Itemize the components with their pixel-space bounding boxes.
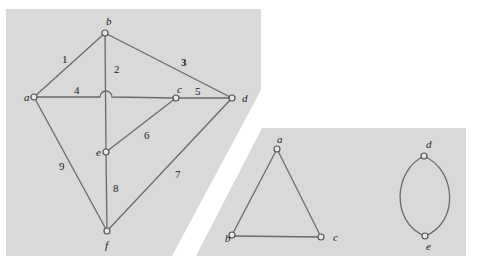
edge-label-1: 1 <box>62 53 68 65</box>
edge-label-6: 6 <box>144 129 150 141</box>
vertex-label-d: d <box>242 92 248 104</box>
vertex-b <box>102 30 108 36</box>
edge-label-7: 7 <box>175 168 181 180</box>
vertex-label-d: d <box>426 138 432 150</box>
graph-figure: 1 2 3 4 5 6 7 8 9 a b c d e f <box>0 0 477 263</box>
vertex-e <box>422 233 428 239</box>
vertex-label-a: a <box>24 91 30 103</box>
vertex-label-e: e <box>96 146 101 158</box>
vertex-label-b: b <box>106 15 112 27</box>
vertex-label-c: c <box>177 83 182 95</box>
vertex-label-a: a <box>277 133 283 145</box>
vertex-label-c: c <box>333 231 338 243</box>
vertex-label-b: b <box>225 232 231 244</box>
edge-label-8: 8 <box>113 182 119 194</box>
vertex-a <box>31 94 37 100</box>
vertex-c <box>173 95 179 101</box>
vertex-d <box>229 95 235 101</box>
vertex-c <box>318 234 324 240</box>
edge-label-9: 9 <box>59 160 65 172</box>
vertex-label-e: e <box>426 240 431 252</box>
vertex-f <box>104 228 110 234</box>
edge-label-5: 5 <box>195 85 201 97</box>
vertex-a <box>274 146 280 152</box>
vertex-d <box>421 153 427 159</box>
edge-label-3: 3 <box>181 56 187 68</box>
edge-label-2: 2 <box>114 63 120 75</box>
edge-label-4: 4 <box>74 84 80 96</box>
vertex-e <box>103 149 109 155</box>
